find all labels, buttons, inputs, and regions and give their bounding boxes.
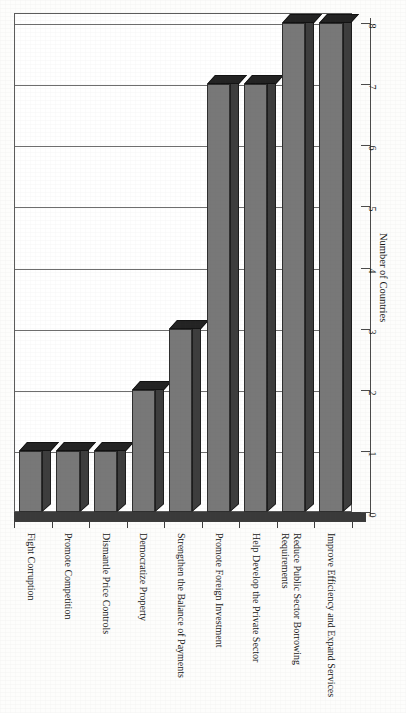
value-axis-tick-label: 4 (367, 268, 378, 273)
chart-floor (14, 512, 366, 521)
bar-side-face (343, 15, 352, 512)
category-axis-tick (14, 521, 15, 528)
category-axis-tick (277, 521, 278, 528)
category-axis-label: Improve Efficiency and Expand Services (325, 533, 337, 697)
bar (132, 390, 155, 512)
bar-front-face (282, 23, 305, 512)
category-axis-label-line: Reduce Public Sector Borrowing (291, 533, 303, 665)
bar-side-face (117, 443, 126, 512)
category-axis-tick (352, 521, 353, 528)
category-axis-label: Dismantle Price Controls (100, 533, 112, 634)
bar-side-face (42, 443, 51, 512)
category-axis-label-line: Help Develop the Private Sector (250, 533, 262, 662)
bar-front-face (319, 23, 342, 512)
bar-front-face (169, 329, 192, 512)
category-axis-label: Strengthen the Balance of Payments (175, 533, 187, 678)
category-axis-tick (127, 521, 128, 528)
category-axis-tick (89, 521, 90, 528)
bar-side-face (192, 321, 201, 512)
value-axis-title: Number of Countries (378, 233, 389, 322)
bar-front-face (19, 451, 42, 512)
bar-chart: 012345678 Number of Countries Fight Corr… (0, 0, 406, 713)
category-axis-tick (164, 521, 165, 528)
bar-front-face (132, 390, 155, 512)
value-axis-tick-label: 7 (367, 85, 378, 90)
category-axis-label-line: Promote Foreign Investment (213, 533, 225, 647)
bar (169, 329, 192, 512)
category-axis-tick (239, 521, 240, 528)
bar (56, 451, 79, 512)
category-axis-label: Promote Foreign Investment (213, 533, 225, 647)
bar (19, 451, 42, 512)
value-axis-tick-label: 6 (367, 146, 378, 151)
category-axis-tick (202, 521, 203, 528)
bar-front-face (207, 84, 230, 512)
category-axis-label-line: Requirements (279, 533, 291, 665)
value-axis-tick-label: 2 (367, 390, 378, 395)
bar-side-face (305, 15, 314, 512)
value-axis-tick-label: 8 (367, 24, 378, 29)
bar-side-face (267, 76, 276, 512)
value-axis-tick-label: 5 (367, 207, 378, 212)
bar-side-face (230, 76, 239, 512)
category-axis-label: Promote Competition (62, 533, 74, 619)
category-axis-label: Reduce Public Sector BorrowingRequiremen… (279, 533, 303, 665)
bar-front-face (56, 451, 79, 512)
bar (94, 451, 117, 512)
value-axis-tick-label: 1 (367, 451, 378, 456)
category-axis-label: Help Develop the Private Sector (250, 533, 262, 662)
bar-side-face (155, 382, 164, 512)
category-axis-label-line: Improve Efficiency and Expand Services (325, 533, 337, 697)
bar (282, 23, 305, 512)
bar-front-face (244, 84, 267, 512)
value-axis-tick-label: 3 (367, 329, 378, 334)
value-axis-tick-label: 0 (367, 513, 378, 518)
bar (207, 84, 230, 512)
category-axis-label-line: Strengthen the Balance of Payments (175, 533, 187, 678)
category-axis-label: Fight Corruption (25, 533, 37, 601)
bar-top-face (319, 14, 359, 23)
category-axis-label: Democratize Property (137, 533, 149, 621)
category-axis-line (14, 521, 366, 522)
category-axis-label-line: Fight Corruption (25, 533, 37, 601)
bar (319, 23, 342, 512)
bar (244, 84, 267, 512)
category-axis-label-line: Promote Competition (62, 533, 74, 619)
bar-front-face (94, 451, 117, 512)
bar-side-face (80, 443, 89, 512)
value-axis-line (370, 18, 371, 516)
category-axis-label-line: Dismantle Price Controls (100, 533, 112, 634)
category-axis-tick (52, 521, 53, 528)
category-axis-tick (314, 521, 315, 528)
category-axis-label-line: Democratize Property (137, 533, 149, 621)
